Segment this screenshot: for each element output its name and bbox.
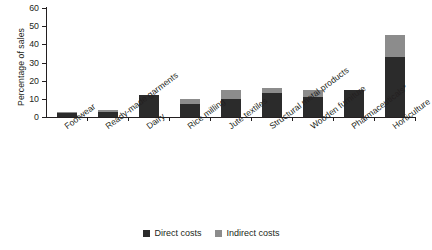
x-axis-tick <box>415 117 416 121</box>
legend-item-indirect-costs: Indirect costs <box>215 228 279 238</box>
chart-legend: Direct costs Indirect costs <box>0 228 423 238</box>
y-axis-tick-label: 0 <box>34 113 39 122</box>
x-axis-tick <box>292 117 293 121</box>
plot-area: 0102030405060 <box>46 8 415 117</box>
y-axis-tick-label: 30 <box>29 58 39 67</box>
x-axis-tick <box>251 117 252 121</box>
y-axis-tick: 10 <box>42 99 46 100</box>
y-axis-tick: 40 <box>42 44 46 45</box>
y-axis-tick-label: 40 <box>29 40 39 49</box>
x-axis-tick <box>374 117 375 121</box>
y-axis-tick: 50 <box>42 26 46 27</box>
x-axis-tick <box>333 117 334 121</box>
y-axis-tick: 20 <box>42 81 46 82</box>
y-axis-line <box>46 7 47 118</box>
legend-label-indirect-costs: Indirect costs <box>226 228 279 238</box>
x-axis-tick <box>128 117 129 121</box>
y-axis-tick-label: 60 <box>29 4 39 13</box>
x-axis-tick <box>210 117 211 121</box>
legend-swatch-direct-costs <box>143 230 150 237</box>
y-axis-tick: 30 <box>42 63 46 64</box>
legend-item-direct-costs: Direct costs <box>143 228 201 238</box>
bar-segment-indirect-costs <box>385 35 405 57</box>
x-axis-tick <box>169 117 170 121</box>
y-axis-tick-label: 10 <box>29 94 39 103</box>
y-axis-tick: 60 <box>42 8 46 9</box>
x-axis-tick <box>87 117 88 121</box>
bar-segment-indirect-costs <box>221 90 241 99</box>
y-axis-tick-label: 50 <box>29 22 39 31</box>
legend-swatch-indirect-costs <box>215 230 222 237</box>
y-axis-title: Percentage of sales <box>16 2 26 132</box>
legend-label-direct-costs: Direct costs <box>154 228 201 238</box>
y-axis-tick: 0 <box>42 117 46 118</box>
y-axis-tick-label: 20 <box>29 76 39 85</box>
